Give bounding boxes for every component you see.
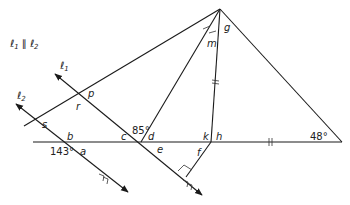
label-p: p — [87, 88, 94, 99]
label-h: h — [216, 131, 222, 142]
line-l1 — [55, 74, 202, 195]
label-e: e — [157, 144, 163, 155]
label-l2: ℓ2 — [17, 90, 26, 103]
line-h-to-g — [211, 9, 220, 142]
label-r: r — [76, 101, 81, 112]
geometry-diagram: ℓ1 ∥ ℓ2 ℓ1 ℓ2 p r s b a c d e f k h g m … — [0, 0, 350, 205]
upper-transversal — [24, 9, 220, 126]
line-d-to-g — [141, 9, 220, 142]
right-angle-mark — [178, 165, 192, 171]
angle-143: 143° — [50, 146, 74, 157]
label-c: c — [121, 131, 127, 142]
label-a: a — [80, 146, 86, 157]
label-g: g — [224, 22, 230, 33]
label-k: k — [203, 131, 210, 142]
angle-85: 85° — [132, 125, 150, 136]
label-s: s — [42, 119, 47, 130]
label-m: m — [207, 38, 217, 49]
label-b: b — [67, 131, 73, 142]
right-side-line — [220, 9, 342, 142]
angle-tick-2 — [209, 31, 216, 33]
angle-48: 48° — [310, 131, 328, 142]
label-l1: ℓ1 — [60, 60, 69, 73]
parallel-statement: ℓ1 ∥ ℓ2 — [10, 38, 39, 51]
